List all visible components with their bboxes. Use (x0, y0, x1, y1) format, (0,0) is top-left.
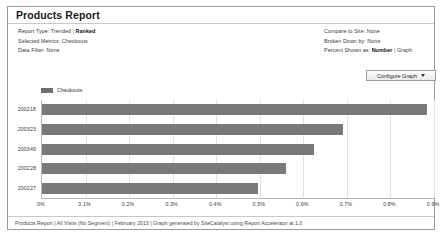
y-axis-tick-label: 200228 (18, 165, 36, 171)
y-axis-tick-label: 200218 (18, 106, 36, 112)
report-meta-value-alt[interactable]: Ranked (76, 28, 96, 34)
report-meta-label: Selected Metrics: (18, 38, 62, 44)
report-meta-value-alt[interactable]: Graph (397, 47, 412, 53)
report-title-bar: Products Report (8, 7, 434, 24)
page-title: Products Report (16, 9, 100, 21)
chart-gridline (434, 100, 435, 198)
footer-text: Products Report | All Visits (No Segment… (15, 220, 302, 226)
x-axis-tick-label: 0.6% (296, 201, 308, 207)
legend-label-checkouts: Checkouts (57, 87, 82, 93)
x-axis-tick-label: 0.2% (122, 201, 134, 207)
x-axis-tick-label: 0.8% (383, 201, 395, 207)
report-meta-value: Checkouts (62, 38, 88, 44)
report-meta-value: Trended (51, 28, 71, 34)
bar-chart-plot (41, 100, 434, 199)
report-meta-label: Percent Shown as: (324, 47, 372, 53)
chart-bar[interactable] (42, 144, 314, 155)
chart-bar-row (42, 104, 434, 115)
x-axis-tick-label: 0.7% (340, 201, 352, 207)
report-meta-line: Report Type: Trended | Ranked (18, 27, 95, 37)
chart-bar-row (42, 163, 434, 174)
y-axis-tick-label: 200323 (18, 126, 36, 132)
x-axis-labels: 0%0.1%0.2%0.3%0.4%0.5%0.6%0.7%0.8%0.9% (41, 201, 433, 211)
report-meta-line: Selected Metrics: Checkouts (18, 37, 95, 47)
x-axis-tick-label: 0.4% (209, 201, 221, 207)
report-metadata-right-column: Compare to Site: NoneBroken Down by: Non… (324, 27, 412, 56)
report-metadata-left-column: Report Type: Trended | RankedSelected Me… (18, 27, 95, 56)
chart-bar-row (42, 144, 434, 155)
report-meta-label: Broken Down by: (324, 38, 367, 44)
report-meta-line: Compare to Site: None (324, 27, 412, 37)
report-meta-label: Data Filter: (18, 47, 47, 53)
report-panel: Products Report Report Type: Trended | R… (7, 6, 435, 230)
report-footer: Products Report | All Visits (No Segment… (8, 216, 434, 229)
x-axis-tick-label: 0% (37, 201, 45, 207)
chart-bar[interactable] (42, 183, 258, 194)
report-meta-label: Report Type: (18, 28, 51, 34)
x-axis-tick-label: 0.5% (253, 201, 265, 207)
chart-bar[interactable] (42, 124, 343, 135)
products-report-screen: Products Report Report Type: Trended | R… (0, 0, 442, 236)
x-axis-tick-label: 0.3% (165, 201, 177, 207)
report-meta-value: None (367, 28, 380, 34)
report-metadata: Report Type: Trended | RankedSelected Me… (8, 24, 434, 64)
chart-bar[interactable] (42, 104, 427, 115)
report-meta-value: None (367, 38, 380, 44)
report-meta-value: None (47, 47, 60, 53)
report-meta-line: Broken Down by: None (324, 37, 412, 47)
configure-graph-button[interactable]: Configure Graph (366, 70, 436, 81)
chart-bar-row (42, 183, 434, 194)
x-axis-tick-label: 0.1% (78, 201, 90, 207)
x-axis-tick-label: 0.9% (427, 201, 439, 207)
chart-area: Checkouts 200218200323200349200228200227… (8, 83, 434, 216)
report-meta-line: Data Filter: None (18, 46, 95, 56)
configure-graph-label: Configure Graph (377, 73, 417, 79)
chevron-down-icon (421, 74, 425, 77)
report-meta-line: Percent Shown as: Number | Graph (324, 46, 412, 56)
report-meta-value: Number (372, 47, 393, 53)
chart-bar-row (42, 124, 434, 135)
y-axis-tick-label: 200227 (18, 185, 36, 191)
chart-bar[interactable] (42, 163, 286, 174)
y-axis-tick-label: 200349 (18, 146, 36, 152)
report-meta-label: Compare to Site: (324, 28, 367, 34)
chart-legend: Checkouts (41, 87, 82, 93)
y-axis-labels: 200218200323200349200228200227 (8, 100, 39, 198)
legend-swatch-checkouts (41, 88, 53, 93)
